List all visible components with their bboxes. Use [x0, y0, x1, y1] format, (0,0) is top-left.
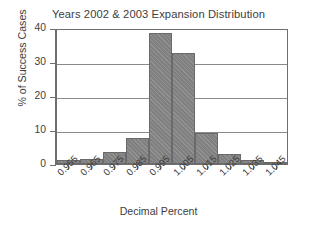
bar-slot — [126, 30, 149, 164]
y-axis-tick — [50, 165, 56, 166]
bar-slot — [172, 30, 195, 164]
bar-slot — [264, 30, 287, 164]
y-axis-tick — [50, 131, 56, 132]
y-axis-tick — [50, 29, 56, 30]
bar-slot — [241, 30, 264, 164]
bar — [149, 33, 172, 164]
bar-slot — [149, 30, 172, 164]
y-axis-tick-label: 30 — [10, 56, 46, 67]
y-axis-tick-label: 40 — [10, 22, 46, 33]
y-axis-tick — [50, 97, 56, 98]
bar-slot — [195, 30, 218, 164]
y-axis-tick — [50, 63, 56, 64]
x-axis-tick-labels: 0.9550.9650.9750.9850.9951.0051.0151.025… — [56, 168, 288, 204]
chart-figure: Years 2002 & 2003 Expansion Distribution… — [0, 0, 317, 227]
chart-title: Years 2002 & 2003 Expansion Distribution — [0, 8, 317, 20]
bar-series — [57, 30, 287, 164]
bar-slot — [218, 30, 241, 164]
plot-area — [56, 29, 288, 165]
bar-slot — [103, 30, 126, 164]
bar-slot — [80, 30, 103, 164]
bar-slot — [57, 30, 80, 164]
x-axis-title: Decimal Percent — [0, 205, 317, 217]
y-axis-tick-label: 20 — [10, 90, 46, 101]
bar — [172, 53, 195, 164]
y-axis-tick-label: 0 — [10, 158, 46, 169]
y-axis-tick-label: 10 — [10, 124, 46, 135]
